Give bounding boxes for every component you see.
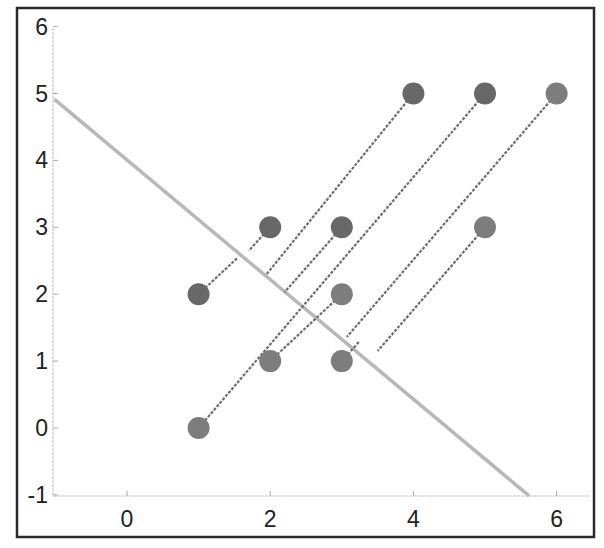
- data-point: [331, 216, 353, 238]
- y-tick-label: 6: [35, 14, 48, 40]
- x-tick-label: 4: [407, 506, 420, 532]
- chart: -10123456 0246: [0, 0, 604, 548]
- data-point: [259, 350, 281, 372]
- data-point: [188, 417, 210, 439]
- y-tick-label: 0: [35, 415, 48, 441]
- data-point: [402, 83, 424, 105]
- x-tick-label: 6: [550, 506, 563, 532]
- data-point: [331, 350, 353, 372]
- data-point: [474, 83, 496, 105]
- y-tick-label: 2: [35, 281, 48, 307]
- data-point: [474, 216, 496, 238]
- chart-frame: [17, 8, 594, 537]
- y-tick-label: 5: [35, 81, 48, 107]
- data-point: [331, 283, 353, 305]
- y-tick-label: -1: [28, 482, 48, 508]
- data-point: [259, 216, 281, 238]
- y-tick-label: 4: [35, 147, 48, 173]
- y-tick-label: 1: [35, 348, 48, 374]
- y-tick-label: 3: [35, 214, 48, 240]
- x-tick-label: 2: [264, 506, 277, 532]
- data-point: [546, 83, 568, 105]
- x-tick-label: 0: [121, 506, 134, 532]
- data-point: [188, 283, 210, 305]
